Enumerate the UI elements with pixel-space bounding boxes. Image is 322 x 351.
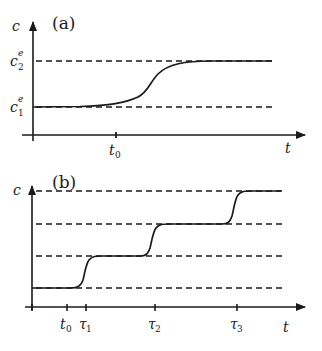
panel-a: (a) c t c e 2 c e 1 t 0	[10, 13, 305, 160]
panel-b-tick-label-tau1: τ 1	[79, 316, 92, 334]
panel-b-y-axis-label: c	[13, 182, 21, 198]
panel-b-tick-label-tau2: τ 2	[148, 316, 161, 334]
svg-text:e: e	[18, 48, 23, 58]
svg-text:1: 1	[18, 108, 24, 118]
panel-a-concentration-curve	[33, 61, 272, 107]
svg-text:0: 0	[66, 324, 72, 334]
svg-text:0: 0	[115, 150, 121, 160]
panel-a-tick-label-t0: t 0	[109, 142, 121, 160]
panel-b-concentration-staircase	[32, 191, 281, 288]
panel-a-label: (a)	[52, 13, 75, 33]
panel-a-x-axis-label: t	[285, 140, 291, 156]
svg-text:c: c	[10, 99, 18, 115]
panel-b-label: (b)	[52, 172, 76, 192]
svg-text:2: 2	[18, 62, 24, 72]
panel-a-y-axis-label: c	[12, 18, 20, 34]
svg-text:1: 1	[86, 324, 92, 334]
panel-a-label-c1e: c e 1	[10, 94, 24, 118]
svg-text:2: 2	[155, 324, 161, 334]
panel-b-x-axis-label: t	[283, 319, 289, 335]
svg-text:3: 3	[237, 324, 243, 334]
diagram-canvas: (a) c t c e 2 c e 1 t 0	[0, 0, 322, 351]
svg-text:e: e	[18, 94, 23, 104]
panel-a-label-c2e: c e 2	[10, 48, 24, 72]
panel-b: (b) c t t 0 τ 1 τ 2	[13, 172, 305, 335]
panel-b-tick-label-t0: t 0	[60, 316, 72, 334]
panel-b-tick-label-tau3: τ 3	[230, 316, 243, 334]
svg-text:c: c	[10, 53, 18, 69]
